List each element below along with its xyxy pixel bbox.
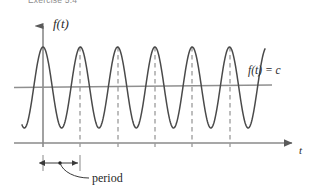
periodic-function-figure: Exercise 5.4 — [0, 0, 314, 192]
period-bracket — [43, 155, 89, 178]
x-axis-label: t — [299, 145, 302, 156]
period-leader-line — [60, 163, 89, 178]
y-axis-label: f(t) — [53, 17, 69, 30]
figure-canvas — [0, 0, 314, 192]
peak-dropline-group — [80, 47, 230, 147]
level-line-label: f(t) = c — [248, 65, 281, 77]
period-label: period — [92, 172, 123, 184]
